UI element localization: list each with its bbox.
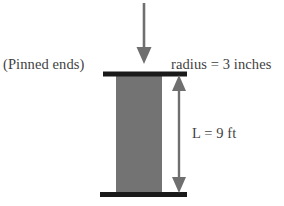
top-pinned-support-bar (103, 72, 187, 77)
downward-load-arrow (137, 3, 152, 64)
column-body (116, 76, 162, 192)
radius-label: radius = 3 inches (171, 57, 271, 72)
bottom-pinned-support-bar (100, 192, 187, 197)
diagram-canvas (0, 0, 284, 206)
column-buckling-diagram: (Pinned ends) radius = 3 inches L = 9 ft (0, 0, 284, 206)
length-label: L = 9 ft (192, 126, 236, 141)
length-dimension-line (172, 75, 186, 193)
pinned-ends-label: (Pinned ends) (3, 57, 84, 72)
